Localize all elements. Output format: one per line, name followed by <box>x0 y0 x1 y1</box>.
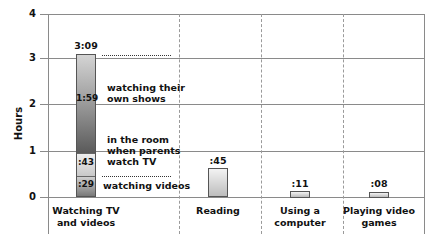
category-label-reading: Reading <box>173 205 263 217</box>
segment-label-videos: :29 <box>76 179 96 189</box>
gridline-2 <box>40 104 424 105</box>
y-tick-1: 1 <box>22 145 36 156</box>
bar-games <box>369 192 389 198</box>
y-tick-4: 4 <box>22 8 36 19</box>
category-label-games: Playing video games <box>334 205 424 229</box>
segment-label-room: :43 <box>76 157 96 167</box>
y-tick-0: 0 <box>22 191 36 202</box>
annotation-room-line2: when parents <box>107 145 180 156</box>
annotation-own-shows: watching their own shows <box>107 82 185 104</box>
category-games-line2: games <box>334 217 424 229</box>
category-label-computer: Using a computer <box>255 205 345 229</box>
y-axis-label: Hours <box>13 104 24 144</box>
total-label-tv: 3:09 <box>66 40 106 51</box>
annotation-room-line1: in the room <box>107 134 180 145</box>
bar-computer <box>290 191 310 198</box>
right-border-line <box>424 14 425 234</box>
gridline-4 <box>40 14 424 15</box>
category-computer-line1: Using a <box>255 205 345 217</box>
bar-watching-tv <box>76 54 96 197</box>
category-reading-line1: Reading <box>173 205 263 217</box>
y-tick-3: 3 <box>22 52 36 63</box>
category-divider-1 <box>179 14 180 234</box>
category-divider-3 <box>343 14 344 234</box>
annotation-videos: watching videos <box>103 180 190 191</box>
category-computer-line2: computer <box>255 217 345 229</box>
videos-dotted-leader <box>102 176 171 177</box>
annotation-room-line3: watch TV <box>107 156 180 167</box>
category-games-line1: Playing video <box>334 205 424 217</box>
category-label-tv: Watching TV and videos <box>41 205 131 229</box>
annotation-own-line1: watching their <box>107 82 185 93</box>
category-tv-line2: and videos <box>41 217 131 229</box>
gridline-0 <box>40 197 424 198</box>
category-tv-line1: Watching TV <box>41 205 131 217</box>
gridline-3 <box>40 58 424 59</box>
y-tick-2: 2 <box>22 98 36 109</box>
total-dotted-leader <box>102 55 171 56</box>
bar-reading <box>208 168 228 197</box>
segment-label-own: 1:59 <box>76 93 96 103</box>
value-label-reading: :45 <box>198 155 238 166</box>
category-divider-2 <box>261 14 262 234</box>
annotation-room-parents: in the room when parents watch TV <box>107 134 180 167</box>
y-axis-line <box>48 14 49 234</box>
annotation-own-line2: own shows <box>107 93 185 104</box>
segment-own-shows <box>77 55 95 153</box>
gridline-1 <box>40 151 424 152</box>
value-label-games: :08 <box>359 178 399 189</box>
value-label-computer: :11 <box>280 178 320 189</box>
